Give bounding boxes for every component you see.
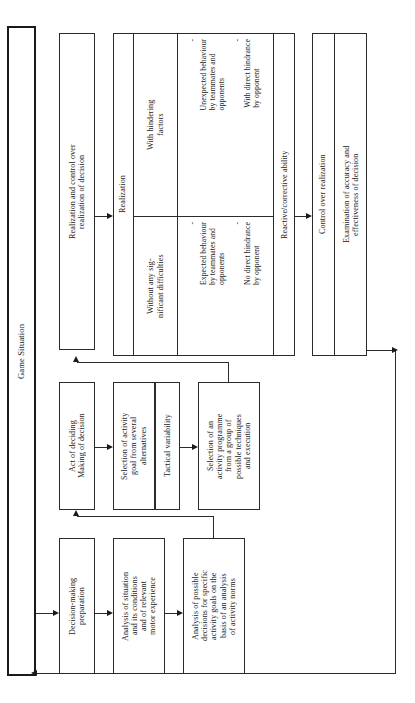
bullet-marker: - bbox=[189, 39, 197, 42]
step-selection-of-activity-programme-text: Selection of an activity programme from … bbox=[198, 382, 260, 510]
realization-condition-without-difficulties: Without any sig- nificant difficulties bbox=[134, 216, 177, 356]
arrowhead-stage2-to-stage3 bbox=[73, 356, 79, 362]
list-item: - Expected behaviour by teammates and op… bbox=[189, 222, 226, 285]
list-item-text: No direct hindrance by opponent bbox=[244, 222, 262, 285]
list-item-text: With direct hindrance by opponent bbox=[244, 39, 262, 108]
connector-stage2-to-stage3-vertical bbox=[228, 362, 229, 382]
connector-stage2-to-stage3-horizontal bbox=[77, 362, 229, 363]
bullet-marker: - bbox=[234, 39, 242, 42]
list-item-text: Expected behaviour by teammates and oppo… bbox=[200, 222, 226, 285]
feedback-arrowhead-exit bbox=[392, 347, 398, 353]
step-analysis-of-situation-text: Analysis of situation and its conditions… bbox=[113, 538, 165, 674]
feedback-path-right bbox=[395, 350, 396, 674]
diagram-canvas: Game Situation Decision-making preparati… bbox=[0, 0, 415, 703]
group-control-over-realization-label: Control over realization bbox=[312, 33, 334, 356]
list-item-text: Unexpected behaviour by teammates and op… bbox=[200, 39, 226, 110]
list-item: - With direct hindrance by opponent bbox=[234, 39, 262, 108]
connector-stage1-to-stage2-horizontal bbox=[77, 516, 214, 517]
bullet-marker: - bbox=[234, 222, 242, 225]
group-control-over-realization-detail: Examination of accuracy and effectivenes… bbox=[335, 33, 367, 356]
group-realization-label: Realization bbox=[113, 33, 133, 356]
feedback-arrowhead-to-game-situation bbox=[31, 670, 37, 676]
realization-items-without-difficulties: - No direct hindrance by opponent - Expe… bbox=[178, 216, 273, 356]
step-tactical-variability-text: Tactical variability bbox=[155, 382, 180, 510]
list-item: - No direct hindrance by opponent bbox=[234, 222, 262, 285]
step-selection-of-activity-goal-text: Selection of activity goal from several … bbox=[113, 382, 155, 510]
realization-items-with-hindering-factors: - With direct hindrance by opponent - Un… bbox=[178, 33, 273, 216]
bullet-marker: - bbox=[189, 222, 197, 225]
realization-condition-with-hindering-factors: With hindering factors bbox=[134, 33, 177, 216]
game-situation-label: Game Situation bbox=[7, 26, 36, 676]
step-analysis-of-possible-decisions-text: Analysis of possible decisions for speci… bbox=[183, 538, 245, 674]
list-item: - Unexpected behaviour by teammates and … bbox=[189, 39, 226, 110]
arrowhead-stage1-to-stage2 bbox=[73, 510, 79, 516]
connector-stage1-to-stage2-vertical bbox=[213, 516, 214, 538]
stage-realization-and-control-title: Realization and control over realization… bbox=[59, 33, 95, 350]
stage-act-of-deciding-title: Act of deciding Making of decision bbox=[59, 382, 95, 510]
realization-trailer-label: Reactive/corrective ability bbox=[274, 33, 295, 356]
stage-decision-making-preparation-title: Decision-making preparation bbox=[59, 538, 95, 674]
